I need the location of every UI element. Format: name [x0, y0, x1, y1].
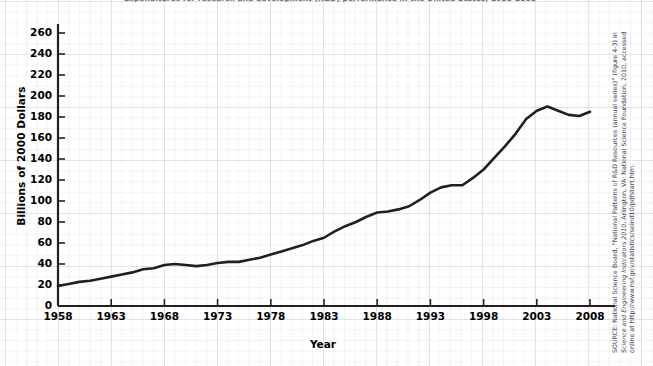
x-tick-label: 2003	[507, 310, 567, 322]
y-tick-label: 240	[6, 47, 52, 59]
x-tick-label: 1978	[241, 310, 301, 322]
y-tick-label: 200	[6, 89, 52, 101]
y-tick-label: 20	[6, 278, 52, 290]
x-tick-label: 1988	[347, 310, 407, 322]
x-tick-label: 1993	[400, 310, 460, 322]
x-tick-label: 1983	[294, 310, 354, 322]
x-tick-label: 1968	[134, 310, 194, 322]
x-tick-label: 1998	[454, 310, 514, 322]
y-tick-label: 120	[6, 173, 52, 185]
y-tick-label: 60	[6, 236, 52, 248]
y-axis-label: Billions of 2000 Dollars	[15, 51, 27, 261]
y-tick-label: 100	[6, 194, 52, 206]
y-tick-label: 40	[6, 257, 52, 269]
x-tick-label: 1973	[188, 310, 248, 322]
source-note: SOURCE: National Science Board, “Nationa…	[611, 13, 637, 353]
x-tick-label: 1958	[28, 310, 88, 322]
y-tick-label: 220	[6, 68, 52, 80]
y-tick-label: 80	[6, 215, 52, 227]
chart-figure: Expenditures for research and developmen…	[0, 0, 653, 366]
y-tick-label: 260	[6, 26, 52, 38]
x-axis-label: Year	[58, 338, 588, 350]
y-tick-label: 140	[6, 152, 52, 164]
y-tick-label: 160	[6, 131, 52, 143]
series-line-rd-expenditures	[58, 107, 590, 287]
x-tick-label: 1963	[81, 310, 141, 322]
source-note-publication: Science and Engineering Indicators 2010	[620, 224, 627, 353]
y-tick-label: 180	[6, 110, 52, 122]
source-note-prefix: SOURCE: National Science Board, “Nationa…	[611, 32, 618, 353]
